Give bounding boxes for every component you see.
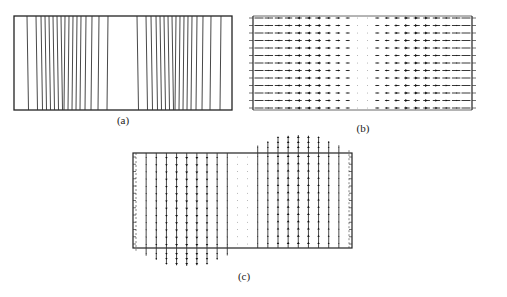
panel-c-label: (c) — [224, 270, 264, 282]
panel-a-label: (a) — [103, 114, 143, 126]
horizontal-vector-field — [240, 0, 507, 125]
panel-a — [0, 0, 250, 125]
panel-b — [240, 0, 507, 125]
vertical-vector-field — [120, 135, 370, 275]
contour-plot — [0, 0, 250, 125]
panel-b-label: (b) — [343, 122, 383, 134]
panel-c — [120, 135, 370, 275]
